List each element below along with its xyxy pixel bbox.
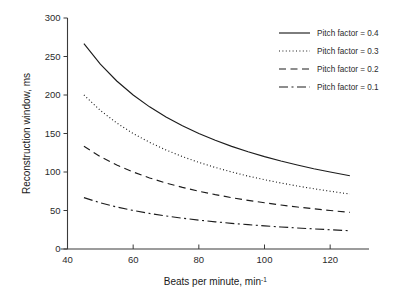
y-tick-label: 200 — [45, 89, 61, 100]
legend-label: Pitch factor = 0.1 — [317, 83, 379, 92]
x-axis-title: Beats per minute, min-1 — [164, 276, 267, 288]
x-tick-label: 80 — [194, 254, 205, 265]
series-line — [84, 146, 350, 212]
legend-label: Pitch factor = 0.2 — [317, 65, 379, 74]
series-line — [84, 95, 350, 194]
x-tick-label: 100 — [257, 254, 273, 265]
legend-label: Pitch factor = 0.3 — [317, 47, 379, 56]
line-chart-canvas: 050100150200250300 406080100120 Pitch fa… — [0, 0, 420, 297]
series-lines — [84, 44, 350, 231]
y-axis-title: Reconstruction window, ms — [21, 73, 32, 194]
y-tick-label: 150 — [45, 128, 61, 139]
x-tick-label: 120 — [322, 254, 338, 265]
x-axis-ticks: 406080100120 — [62, 245, 338, 266]
chart-figure: 050100150200250300 406080100120 Pitch fa… — [0, 0, 420, 297]
y-axis-ticks: 050100150200250300 — [45, 12, 68, 254]
chart-legend: Pitch factor = 0.4Pitch factor = 0.3Pitc… — [279, 29, 379, 92]
series-line — [84, 198, 350, 231]
series-line — [84, 44, 350, 176]
y-tick-label: 100 — [45, 166, 61, 177]
y-tick-label: 0 — [55, 243, 60, 254]
y-tick-label: 250 — [45, 51, 61, 62]
y-tick-label: 50 — [50, 205, 61, 216]
x-tick-label: 60 — [128, 254, 139, 265]
legend-label: Pitch factor = 0.4 — [317, 29, 379, 38]
y-tick-label: 300 — [45, 12, 61, 23]
x-tick-label: 40 — [62, 254, 73, 265]
